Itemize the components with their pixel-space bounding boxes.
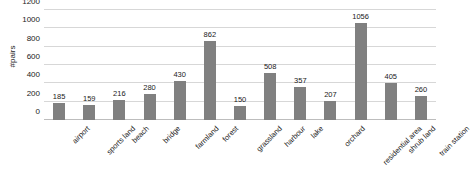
bar-value-label: 1056 <box>352 12 369 21</box>
plot-area: 020040060080010001200 185159216280430862… <box>44 10 436 120</box>
y-axis-tick-label: 800 <box>27 33 40 42</box>
bar <box>174 81 186 120</box>
x-axis-tick-label: harbour <box>283 124 308 149</box>
bar-item: 862 <box>197 10 223 120</box>
bar-item: 185 <box>46 10 72 120</box>
y-axis-tick-label: 200 <box>27 88 40 97</box>
x-axis-tick-label: bridge <box>161 124 182 145</box>
bar-item: 405 <box>378 10 404 120</box>
bar-value-label: 207 <box>324 90 337 99</box>
bar <box>234 106 246 120</box>
bar <box>53 103 65 120</box>
bar-value-label: 430 <box>173 70 186 79</box>
y-axis-tick-label: 1000 <box>22 15 40 24</box>
bar-item: 508 <box>257 10 283 120</box>
bar-value-label: 185 <box>53 92 66 101</box>
bar-value-label: 216 <box>113 89 126 98</box>
bar-item: 207 <box>317 10 343 120</box>
y-axis-tick-label: 1200 <box>22 0 40 6</box>
y-axis-tick-label: 400 <box>27 70 40 79</box>
x-axis-tick-label: grassland <box>255 124 284 153</box>
x-axis-tick-label: lake <box>309 124 325 140</box>
bar-value-label: 159 <box>83 94 96 103</box>
bar <box>385 83 397 120</box>
bar-value-label: 357 <box>294 76 307 85</box>
bar-value-label: 862 <box>204 30 217 39</box>
bar <box>355 23 367 120</box>
bar <box>264 73 276 120</box>
x-axis-tick-label: forest <box>220 124 240 144</box>
y-axis-title: #pairs <box>8 27 17 87</box>
bar-item: 216 <box>106 10 132 120</box>
bar-value-label: 405 <box>385 72 398 81</box>
bar-item: 1056 <box>348 10 374 120</box>
bar-item: 280 <box>137 10 163 120</box>
bar-item: 150 <box>227 10 253 120</box>
bar <box>144 94 156 120</box>
bar <box>204 41 216 120</box>
bar-item: 159 <box>76 10 102 120</box>
bar-value-label: 280 <box>143 83 156 92</box>
bar-value-label: 260 <box>415 85 428 94</box>
bar <box>324 101 336 120</box>
bar <box>113 100 125 120</box>
bar-item: 430 <box>167 10 193 120</box>
bar-value-label: 508 <box>264 62 277 71</box>
bar-value-label: 150 <box>234 95 247 104</box>
bar-item: 357 <box>287 10 313 120</box>
bar <box>83 105 95 120</box>
y-axis-tick-label: 0 <box>36 107 40 116</box>
bar-item: 260 <box>408 10 434 120</box>
x-axis-tick-label: airport <box>70 124 91 145</box>
bar <box>294 87 306 120</box>
x-axis-tick-label: farmland <box>193 124 220 151</box>
x-axis-tick-label: train station <box>437 124 471 158</box>
x-axis-tick-label: orchard <box>343 124 367 148</box>
bar <box>415 96 427 120</box>
y-axis-tick-label: 600 <box>27 52 40 61</box>
